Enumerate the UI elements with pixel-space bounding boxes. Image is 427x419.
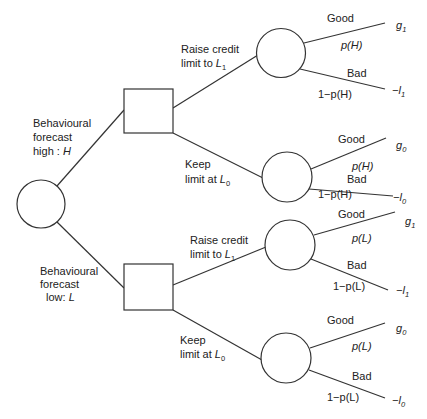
edge-high-keep — [173, 133, 263, 178]
payoff-value: −l0 — [392, 394, 406, 409]
label-line: low: L — [46, 291, 75, 303]
outcome-probability: p(L) — [351, 340, 372, 352]
label-line: limit to L1 — [190, 248, 235, 263]
outcome-probability: 1−p(H) — [318, 188, 352, 200]
label-line: Behavioural — [40, 265, 98, 277]
label-line: limit to L1 — [181, 57, 226, 72]
payoff-value: g1 — [396, 19, 406, 34]
outcome-probability: 1−p(L) — [333, 280, 365, 292]
decision-node-low — [124, 264, 173, 310]
option-label-high-keep: Keep limit at L0 — [185, 158, 230, 188]
label-line: forecast — [40, 278, 79, 290]
chance-node-high-raise — [257, 29, 306, 78]
outcome-probability: 1−p(L) — [327, 391, 359, 403]
payoff-value: g0 — [396, 322, 407, 337]
label-line: Keep — [180, 334, 206, 346]
payoff-value: −l1 — [396, 284, 409, 299]
label-line: Behavioural — [33, 117, 91, 129]
outcome-probability: 1−p(H) — [318, 88, 352, 100]
label-line: forecast — [33, 131, 72, 143]
outcome-name: Bad — [347, 173, 367, 185]
root-chance-node — [17, 180, 65, 228]
option-label-low-raise: Raise credit limit to L1 — [190, 234, 248, 263]
label-line: limit at L0 — [180, 348, 225, 363]
payoff-value: g0 — [396, 139, 407, 154]
outcome-name: Good — [327, 314, 354, 326]
edge-outcome-4-good — [310, 323, 385, 348]
outcome-name: Bad — [347, 67, 367, 79]
outcome-name: Bad — [347, 259, 367, 271]
outcome-probability: p(L) — [351, 232, 372, 244]
label-line: limit at L0 — [185, 173, 230, 188]
label-line: high : H — [33, 145, 71, 157]
payoff-value: g1 — [405, 215, 415, 230]
decision-node-high — [124, 89, 173, 133]
outcome-name: Good — [327, 12, 354, 24]
chance-node-low-keep — [261, 333, 311, 383]
label-line: Keep — [185, 158, 211, 170]
outcome-probability: p(H) — [351, 160, 374, 172]
label-line: Raise credit — [181, 43, 239, 55]
chance-node-low-raise — [265, 220, 315, 270]
branch-label-high: Behavioural forecast high : H — [33, 117, 91, 157]
decision-tree-diagram: Behavioural forecast high : H Behavioura… — [0, 0, 427, 419]
branch-label-low: Behavioural forecast low: L — [40, 265, 98, 303]
option-label-low-keep: Keep limit at L0 — [180, 334, 225, 363]
payoff-value: −l0 — [393, 191, 407, 206]
label-line: Raise credit — [190, 234, 248, 246]
outcome-name: Bad — [352, 370, 372, 382]
payoff-value: −l1 — [392, 84, 405, 99]
outcome-probability: p(H) — [340, 39, 363, 51]
outcome-name: Good — [338, 133, 365, 145]
chance-node-high-keep — [262, 152, 312, 202]
edge-outcome-1-bad — [300, 69, 385, 89]
outcome-name: Good — [338, 208, 365, 220]
option-label-high-raise: Raise credit limit to L1 — [181, 43, 239, 72]
